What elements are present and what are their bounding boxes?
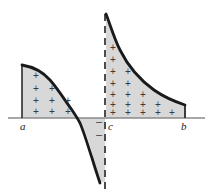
plus-sign: +: [33, 96, 39, 106]
plus-sign: +: [33, 84, 39, 94]
plus-sign: +: [110, 55, 116, 65]
plus-sign: +: [125, 67, 131, 77]
minus-sign: –: [96, 116, 102, 127]
plus-sign: +: [33, 107, 39, 117]
plus-sign: +: [110, 79, 116, 89]
plus-sign: +: [110, 108, 116, 118]
plus-sign: +: [110, 43, 116, 53]
plus-sign: +: [140, 108, 146, 118]
figure-canvas: [0, 0, 211, 193]
axis-label-c: c: [108, 121, 113, 132]
plus-sign: +: [65, 96, 71, 106]
plus-sign: +: [49, 96, 55, 106]
integral-area-figure: a c b + + + + + + + + + + + + + + + + + …: [0, 0, 211, 193]
plus-sign: +: [155, 108, 161, 118]
plus-sign: +: [65, 107, 71, 117]
plus-sign: +: [169, 108, 175, 118]
axis-label-a: a: [20, 121, 26, 132]
plus-sign: +: [125, 108, 131, 118]
plus-sign: +: [33, 71, 39, 81]
plus-sign: +: [49, 84, 55, 94]
plus-sign: +: [110, 67, 116, 77]
plus-sign: +: [49, 107, 55, 117]
plus-sign: +: [125, 79, 131, 89]
axis-label-b: b: [181, 121, 187, 132]
minus-sign: –: [96, 129, 102, 140]
